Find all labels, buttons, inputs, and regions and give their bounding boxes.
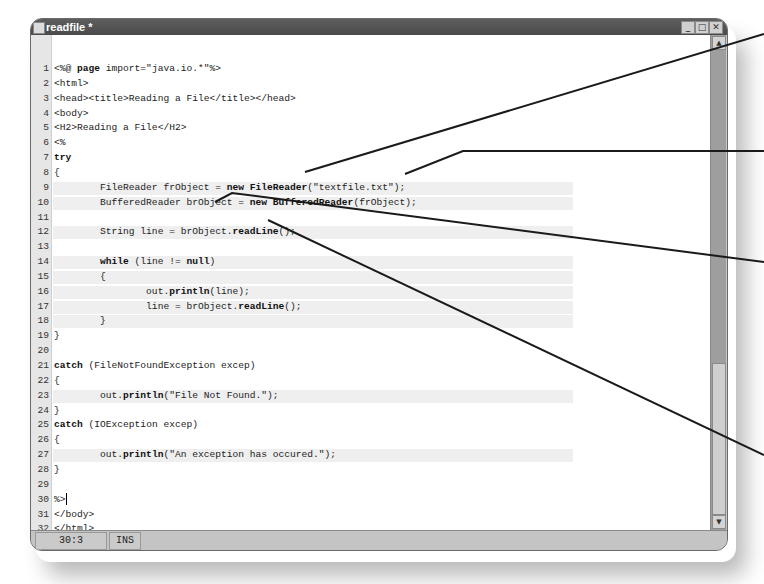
line-code: catch (IOException excep): [54, 418, 198, 433]
code-line[interactable]: 28}: [31, 463, 710, 478]
line-number: 8: [31, 166, 49, 181]
code-line[interactable]: 11: [31, 211, 710, 226]
close-button[interactable]: ✕: [709, 21, 723, 34]
scroll-up-button[interactable]: ▲: [712, 36, 726, 50]
line-number: 18: [31, 314, 49, 329]
line-number: 15: [31, 270, 49, 285]
line-number: 21: [31, 359, 49, 374]
code-line[interactable]: 8{: [31, 166, 710, 181]
line-number: 22: [31, 374, 49, 389]
code-line[interactable]: 24}: [31, 404, 710, 419]
line-code: out.println("File Not Found.");: [54, 389, 279, 404]
line-code: %>: [54, 493, 67, 508]
line-code: out.println("An exception has occured.")…: [54, 448, 336, 463]
window-title: readfile *: [46, 19, 92, 35]
document-icon: [33, 22, 45, 34]
minimize-button[interactable]: _: [681, 21, 695, 34]
line-number: 32: [31, 522, 49, 530]
code-line[interactable]: 4<body>: [31, 107, 710, 122]
code-line[interactable]: 23 out.println("File Not Found.");: [31, 389, 710, 404]
code-line[interactable]: 13: [31, 240, 710, 255]
line-code: <head><title>Reading a File</title></hea…: [54, 92, 296, 107]
line-number: 4: [31, 107, 49, 122]
code-line[interactable]: 5<H2>Reading a File</H2>: [31, 121, 710, 136]
line-code: BufferedReader brObject = new BufferedRe…: [54, 196, 417, 211]
code-line[interactable]: 20: [31, 344, 710, 359]
code-line[interactable]: 17 line = brObject.readLine();: [31, 300, 710, 315]
line-number: 12: [31, 225, 49, 240]
code-line[interactable]: 22{: [31, 374, 710, 389]
line-code: line = brObject.readLine();: [54, 300, 302, 315]
maximize-button[interactable]: □: [695, 21, 709, 34]
line-code: }: [54, 329, 60, 344]
line-code: }: [54, 463, 60, 478]
line-code: try: [54, 151, 71, 166]
code-line[interactable]: 15 {: [31, 270, 710, 285]
line-number: 24: [31, 404, 49, 419]
text-cursor: [66, 493, 67, 505]
code-line[interactable]: 12 String line = brObject.readLine();: [31, 225, 710, 240]
line-code: </html>: [54, 522, 94, 530]
scroll-down-button[interactable]: ▼: [712, 515, 726, 529]
line-number: 31: [31, 508, 49, 523]
line-code: while (line != null): [54, 255, 215, 270]
line-code: out.println(line);: [54, 285, 250, 300]
insert-mode-indicator: INS: [109, 532, 141, 550]
code-line[interactable]: 6<%: [31, 136, 710, 151]
line-number: 17: [31, 300, 49, 315]
line-code: {: [54, 270, 106, 285]
line-number: 3: [31, 92, 49, 107]
code-line[interactable]: 30%>: [31, 493, 710, 508]
line-code: {: [54, 374, 60, 389]
line-number: 16: [31, 285, 49, 300]
line-code: </body>: [54, 508, 94, 523]
scroll-thumb[interactable]: [712, 363, 726, 515]
line-code: <html>: [54, 77, 89, 92]
code-line[interactable]: 18 }: [31, 314, 710, 329]
line-highlight: [53, 271, 573, 284]
code-line[interactable]: 19}: [31, 329, 710, 344]
line-code: String line = brObject.readLine();: [54, 225, 296, 240]
line-number: 6: [31, 136, 49, 151]
code-line[interactable]: 27 out.println("An exception has occured…: [31, 448, 710, 463]
line-number: 28: [31, 463, 49, 478]
code-line[interactable]: 2<html>: [31, 77, 710, 92]
title-bar[interactable]: readfile * _ □ ✕: [31, 19, 727, 35]
line-number: 20: [31, 344, 49, 359]
code-line[interactable]: 31</body>: [31, 508, 710, 523]
line-code: }: [54, 404, 60, 419]
status-bar: 30:3 INS: [31, 530, 727, 551]
line-highlight: [53, 315, 573, 328]
code-editor[interactable]: 1<%@ page import="java.io.*"%>2<html>3<h…: [31, 35, 710, 530]
code-line[interactable]: 1<%@ page import="java.io.*"%>: [31, 62, 710, 77]
line-code: <H2>Reading a File</H2>: [54, 121, 186, 136]
line-code: <%: [54, 136, 66, 151]
code-line[interactable]: 3<head><title>Reading a File</title></he…: [31, 92, 710, 107]
code-line[interactable]: 10 BufferedReader brObject = new Buffere…: [31, 196, 710, 211]
code-line[interactable]: 14 while (line != null): [31, 255, 710, 270]
line-number: 1: [31, 62, 49, 77]
line-code: catch (FileNotFoundException excep): [54, 359, 256, 374]
code-line[interactable]: 21catch (FileNotFoundException excep): [31, 359, 710, 374]
line-number: 19: [31, 329, 49, 344]
code-line[interactable]: 7try: [31, 151, 710, 166]
vertical-scrollbar[interactable]: ▲ ▼: [710, 35, 726, 530]
code-line[interactable]: 32</html>: [31, 522, 710, 530]
line-number: 13: [31, 240, 49, 255]
code-line[interactable]: 25catch (IOException excep): [31, 418, 710, 433]
line-number: 10: [31, 196, 49, 211]
line-code: <body>: [54, 107, 89, 122]
line-code: <%@ page import="java.io.*"%>: [54, 62, 221, 77]
line-number: 23: [31, 389, 49, 404]
line-code: FileReader frObject = new FileReader("te…: [54, 181, 405, 196]
code-line[interactable]: 26{: [31, 433, 710, 448]
line-code: {: [54, 166, 60, 181]
line-code: }: [54, 314, 106, 329]
code-line[interactable]: 9 FileReader frObject = new FileReader("…: [31, 181, 710, 196]
cursor-position: 30:3: [35, 532, 107, 550]
code-line[interactable]: 16 out.println(line);: [31, 285, 710, 300]
line-number: 29: [31, 478, 49, 493]
line-number: 2: [31, 77, 49, 92]
code-line[interactable]: 29: [31, 478, 710, 493]
editor-window: readfile * _ □ ✕ 1<%@ page import="java.…: [30, 18, 728, 551]
